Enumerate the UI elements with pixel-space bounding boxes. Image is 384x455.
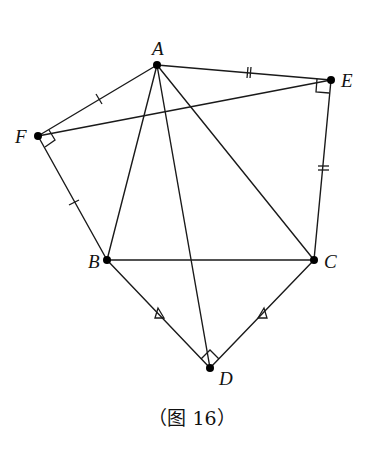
segment-ab: [107, 65, 157, 260]
point-d: [206, 364, 214, 372]
segment-ac: [157, 65, 314, 260]
point-c: [310, 256, 318, 264]
label-b: B: [88, 251, 100, 272]
segment-ae: [157, 65, 331, 80]
point-a: [153, 61, 161, 69]
segment-fb: [38, 136, 107, 260]
label-c: C: [324, 251, 337, 272]
triangle-mark-bd: [155, 308, 164, 318]
point-e: [327, 76, 335, 84]
segment-fe: [38, 80, 331, 136]
segment-af: [38, 65, 157, 136]
label-e: E: [340, 70, 353, 91]
point-f: [34, 132, 42, 140]
label-a: A: [150, 38, 164, 59]
geometry-figure: A E F B C D: [0, 0, 384, 455]
point-b: [103, 256, 111, 264]
double-tick-mark-ae-2: [250, 67, 251, 78]
right-angle-mark-d: [201, 350, 219, 359]
segment-ad: [157, 65, 210, 368]
label-f: F: [14, 126, 27, 147]
label-d: D: [218, 368, 233, 389]
figure-caption: （图 16）: [0, 403, 384, 430]
double-tick-mark-ae-1: [247, 67, 248, 78]
segment-cd: [210, 260, 314, 368]
